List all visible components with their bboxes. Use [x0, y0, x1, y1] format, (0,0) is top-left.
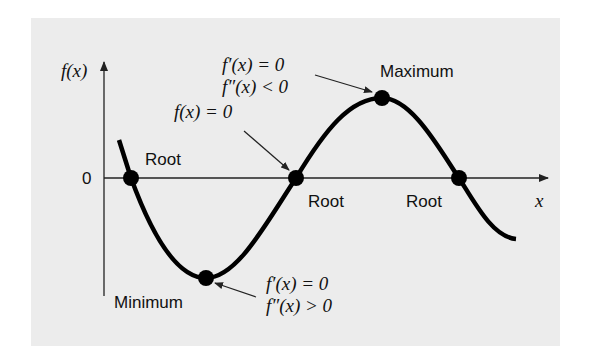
max-condition-first-derivative: f′(x) = 0 — [222, 55, 288, 74]
min-condition-arrow — [215, 283, 256, 297]
root-point-right — [451, 170, 467, 186]
root-condition-arrow — [244, 131, 289, 170]
function-curve — [119, 98, 516, 278]
min-condition-first-derivative: f′(x) = 0 — [266, 274, 332, 293]
root-label-right: Root — [406, 193, 442, 210]
root-label-middle: Root — [308, 193, 344, 210]
minimum-point — [198, 270, 214, 286]
max-condition-second-derivative: f″(x) < 0 — [222, 77, 288, 96]
min-condition-labels: f′(x) = 0 f″(x) > 0 — [266, 274, 332, 318]
y-axis-label: f(x) — [61, 61, 87, 80]
x-axis-label: x — [535, 191, 543, 210]
maximum-label: Maximum — [380, 63, 454, 80]
root-label-left: Root — [145, 151, 181, 168]
min-condition-second-derivative: f″(x) > 0 — [266, 296, 332, 315]
max-condition-arrow — [315, 75, 372, 92]
minimum-label: Minimum — [114, 294, 183, 311]
zero-tick-label: 0 — [82, 170, 91, 187]
root-point-left — [123, 170, 139, 186]
max-condition-labels: f′(x) = 0 f″(x) < 0 — [222, 55, 288, 99]
root-point-middle — [288, 170, 304, 186]
root-condition-label: f(x) = 0 — [174, 102, 232, 121]
maximum-point — [374, 90, 390, 106]
